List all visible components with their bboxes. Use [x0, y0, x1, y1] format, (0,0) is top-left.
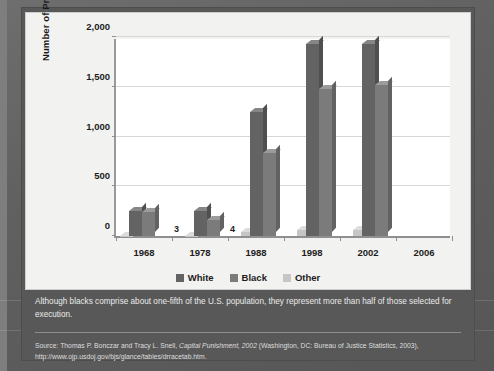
caption-divider — [35, 332, 461, 333]
caption-block: Although blacks comprise about one-fifth… — [25, 296, 471, 362]
bar-1978-white — [194, 211, 207, 236]
bar-group-1998: 1998 — [284, 39, 340, 236]
chart-panel: Number of Prisoners 2,000 1,500 1,000 50… — [25, 12, 471, 290]
source-prefix: Source: Thomas P. Bonczar and Tracy L. S… — [35, 342, 179, 349]
y-tick-label-1500: 1,500 — [86, 70, 110, 81]
chart-plot-wrapper: Number of Prisoners 2,000 1,500 1,000 50… — [26, 13, 470, 289]
bar-2002-white — [362, 44, 375, 236]
bar-label-1988-other: 4 — [230, 224, 235, 234]
chart-legend: White Black Other — [26, 272, 470, 283]
source-publication-title: Capital Punishment, 2002 — [179, 342, 257, 349]
bar-group-2002: 2002 — [340, 39, 396, 236]
x-tick-label-1988: 1988 — [228, 247, 284, 258]
y-tick-label-2000: 2,000 — [86, 21, 110, 32]
bar-1988-black — [263, 153, 276, 236]
bar-1998-black — [319, 89, 332, 236]
bar-group-1988: 4 1988 — [228, 39, 284, 236]
bar-label-1978-other: 3 — [174, 224, 179, 234]
legend-item-black: Black — [230, 272, 267, 283]
y-tick-label-500: 500 — [94, 170, 110, 181]
x-tick-label-1968: 1968 — [116, 247, 172, 258]
x-tick-label-1978: 1978 — [172, 247, 228, 258]
legend-label-other: Other — [295, 272, 320, 283]
source-url: http://www.ojp.usdoj.gov/bjs/glance/tabl… — [35, 353, 207, 360]
bar-1978-black — [207, 220, 220, 236]
bar-group-2006: 2006 — [396, 39, 452, 236]
slide-background: Number of Prisoners 2,000 1,500 1,000 50… — [0, 0, 494, 371]
legend-swatch-other — [283, 274, 291, 282]
x-tick-label-2002: 2002 — [340, 247, 396, 258]
legend-item-white: White — [176, 272, 214, 283]
source-suffix: (Washington, DC: Bureau of Justice Stati… — [257, 342, 419, 349]
legend-swatch-black — [230, 274, 238, 282]
y-axis-title: Number of Prisoners — [40, 0, 51, 61]
slide-content-frame: Number of Prisoners 2,000 1,500 1,000 50… — [22, 8, 474, 360]
gridline-2000 — [116, 36, 450, 37]
bar-1998-white — [306, 44, 319, 236]
legend-item-other: Other — [283, 272, 320, 283]
y-tick-label-0: 0 — [105, 220, 110, 231]
legend-label-black: Black — [242, 272, 267, 283]
plot-area: 2,000 1,500 1,000 500 0 — [114, 39, 450, 238]
bar-1968-white — [129, 211, 142, 236]
bar-group-1978: 3 1978 — [172, 39, 228, 236]
bar-1968-black — [142, 212, 155, 236]
legend-label-white: White — [188, 272, 214, 283]
x-tick-label-2006: 2006 — [396, 247, 452, 258]
x-tick-label-1998: 1998 — [284, 247, 340, 258]
y-tick-label-1000: 1,000 — [86, 120, 110, 131]
bar-2002-black — [375, 85, 388, 236]
legend-swatch-white — [176, 274, 184, 282]
bar-group-1968: 1968 — [116, 39, 172, 236]
caption-text: Although blacks comprise about one-fifth… — [35, 296, 461, 321]
bar-1988-white — [250, 112, 263, 236]
source-block: Source: Thomas P. Bonczar and Tracy L. S… — [35, 341, 461, 362]
